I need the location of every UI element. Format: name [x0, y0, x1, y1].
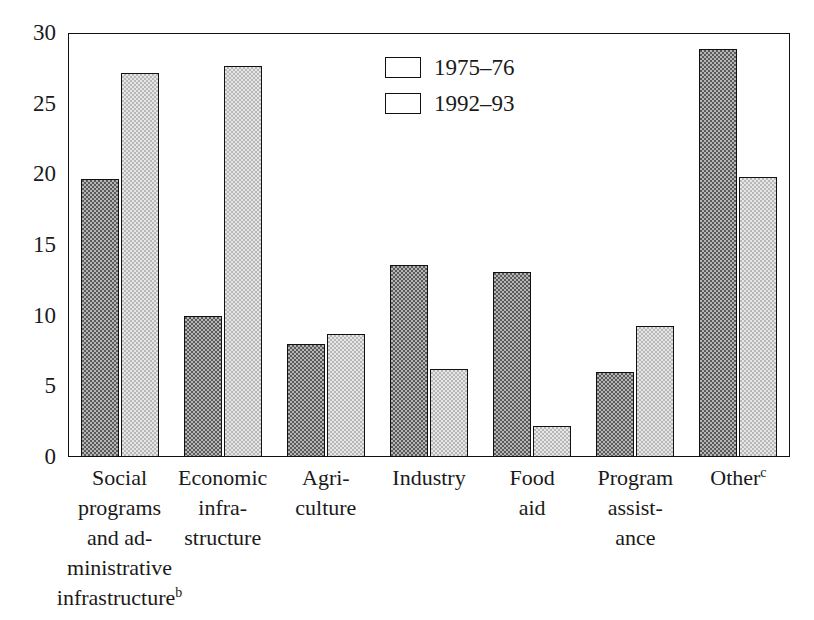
bar-group — [171, 33, 274, 457]
x-axis-label-line: Otherc — [663, 463, 814, 493]
x-axis-label-line: culture — [250, 493, 401, 523]
bar — [739, 177, 777, 457]
y-axis-tick-label: 10 — [10, 304, 56, 327]
bar — [287, 344, 325, 457]
bar — [327, 334, 365, 457]
footnote-marker: b — [175, 585, 182, 600]
footnote-marker: c — [760, 465, 766, 480]
bar — [493, 272, 531, 457]
bar — [430, 369, 468, 457]
y-axis-tick-label: 5 — [10, 374, 56, 397]
y-axis-tick-label: 20 — [10, 162, 56, 185]
legend-swatch-1992-93 — [385, 93, 421, 114]
bar — [390, 265, 428, 457]
legend-swatch-1975-76 — [385, 57, 421, 78]
bar — [81, 179, 119, 457]
x-axis-label-line: structure — [147, 523, 298, 553]
bar — [224, 66, 262, 457]
y-axis-tick-label: 30 — [10, 21, 56, 44]
x-axis-category-label: Otherc — [663, 463, 814, 493]
bar — [184, 316, 222, 457]
bar-group — [584, 33, 687, 457]
bar-group — [687, 33, 790, 457]
x-axis-label-line: infrastructureb — [44, 583, 195, 613]
legend-item: 1992–93 — [385, 88, 515, 118]
y-axis-tick-label: 15 — [10, 233, 56, 256]
y-axis-tick-label: 25 — [10, 92, 56, 115]
x-axis-labels: Socialprogramsand ad-ministrativeinfrast… — [68, 463, 790, 620]
bar-group — [274, 33, 377, 457]
bar — [533, 426, 571, 457]
legend-label-1992-93: 1992–93 — [434, 92, 515, 115]
legend: 1975–76 1992–93 — [385, 52, 515, 124]
legend-label-1975-76: 1975–76 — [434, 56, 515, 79]
bar — [121, 73, 159, 457]
x-axis-label-line: ance — [560, 523, 711, 553]
x-axis-label-line: assist- — [560, 493, 711, 523]
chart-figure: 051015202530 1975–76 1992–93 Socialprogr… — [0, 0, 814, 620]
x-axis-label-line: ministrative — [44, 553, 195, 583]
bar — [596, 372, 634, 457]
bar — [699, 49, 737, 457]
bar — [636, 326, 674, 457]
bar-group — [68, 33, 171, 457]
legend-item: 1975–76 — [385, 52, 515, 82]
